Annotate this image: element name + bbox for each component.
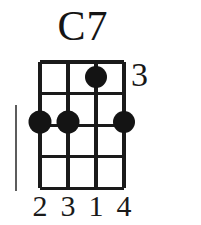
- finger-number: 1: [83, 190, 109, 222]
- fret-position-marker: 3: [131, 58, 161, 92]
- finger-number: 4: [111, 190, 137, 222]
- finger-dots: [29, 66, 136, 134]
- chord-diagram: C7 3 2 3 1 4: [0, 0, 201, 225]
- finger-dot: [29, 111, 52, 134]
- finger-number-row: 2 3 1 4: [0, 190, 201, 222]
- fret-lines: [40, 62, 124, 188]
- finger-dot: [85, 66, 107, 88]
- finger-dot: [57, 111, 80, 134]
- finger-number: 2: [27, 190, 53, 222]
- finger-number: 3: [55, 190, 81, 222]
- finger-dot: [113, 111, 135, 133]
